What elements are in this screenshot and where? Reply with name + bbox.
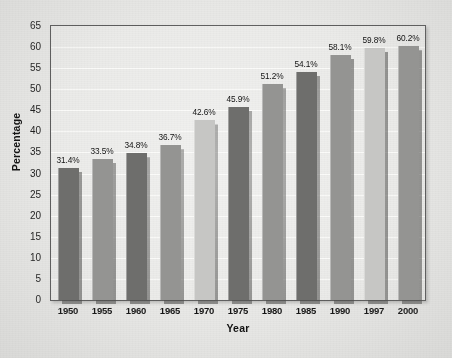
bar-1970[interactable]: 42.6%: [194, 26, 214, 300]
bar-1985[interactable]: 54.1%: [296, 26, 316, 300]
y-axis-tick-30: 30: [30, 169, 41, 179]
y-axis-tick-labels: 05101520253035404550556065: [0, 25, 46, 301]
bar-1965[interactable]: 36.7%: [160, 26, 180, 300]
bar-value-label: 58.1%: [328, 42, 351, 52]
bar-body[interactable]: [398, 46, 419, 300]
y-axis-tick-25: 25: [30, 190, 41, 200]
bar-1960[interactable]: 34.8%: [126, 26, 146, 300]
x-axis-tick-1980: 1980: [262, 305, 282, 316]
chart-figure: 05101520253035404550556065 Percentage 31…: [0, 0, 452, 358]
y-axis-tick-55: 55: [30, 63, 41, 73]
x-axis-tick-2000: 2000: [398, 305, 418, 316]
y-axis-tick-0: 0: [35, 295, 41, 305]
bar-value-label: 42.6%: [192, 107, 215, 117]
bar-1997[interactable]: 59.8%: [364, 26, 384, 300]
y-axis-tick-20: 20: [30, 211, 41, 221]
bar-body[interactable]: [194, 120, 215, 300]
y-axis-tick-60: 60: [30, 42, 41, 52]
y-axis-tick-65: 65: [30, 21, 41, 31]
bar-1990[interactable]: 58.1%: [330, 26, 350, 300]
y-axis-tick-50: 50: [30, 84, 41, 94]
x-axis-title: Year: [51, 322, 425, 334]
x-axis-tick-1970: 1970: [194, 305, 214, 316]
bar-value-label: 34.8%: [124, 140, 147, 150]
bar-body[interactable]: [92, 159, 113, 300]
x-axis-tick-1955: 1955: [92, 305, 112, 316]
y-axis-tick-35: 35: [30, 147, 41, 157]
bar-value-label: 60.2%: [396, 33, 419, 43]
y-axis-title: Percentage: [10, 87, 22, 197]
bar-value-label: 36.7%: [158, 132, 181, 142]
y-axis-tick-40: 40: [30, 126, 41, 136]
bar-value-label: 59.8%: [362, 35, 385, 45]
y-axis-tick-5: 5: [35, 274, 41, 284]
bar-value-label: 54.1%: [294, 59, 317, 69]
bar-1975[interactable]: 45.9%: [228, 26, 248, 300]
bar-value-label: 31.4%: [56, 155, 79, 165]
bar-body[interactable]: [364, 48, 385, 300]
x-axis-tick-labels: 1950195519601965197019751980198519901997…: [51, 305, 425, 319]
bar-body[interactable]: [262, 84, 283, 300]
bar-1950[interactable]: 31.4%: [58, 26, 78, 300]
bar-2000[interactable]: 60.2%: [398, 26, 418, 300]
x-axis-tick-1990: 1990: [330, 305, 350, 316]
bar-series: 31.4%33.5%34.8%36.7%42.6%45.9%51.2%54.1%…: [51, 26, 425, 300]
bar-body[interactable]: [160, 145, 181, 300]
bar-1980[interactable]: 51.2%: [262, 26, 282, 300]
y-axis-tick-10: 10: [30, 253, 41, 263]
y-axis-tick-15: 15: [30, 232, 41, 242]
y-axis-tick-45: 45: [30, 105, 41, 115]
bar-value-label: 45.9%: [226, 94, 249, 104]
bar-value-label: 33.5%: [90, 146, 113, 156]
x-axis-tick-1985: 1985: [296, 305, 316, 316]
bar-body[interactable]: [126, 153, 147, 300]
x-axis-tick-1965: 1965: [160, 305, 180, 316]
bar-body[interactable]: [228, 107, 249, 300]
x-axis-tick-1975: 1975: [228, 305, 248, 316]
x-axis-tick-1960: 1960: [126, 305, 146, 316]
x-axis-tick-1997: 1997: [364, 305, 384, 316]
bar-body[interactable]: [58, 168, 79, 300]
bar-body[interactable]: [330, 55, 351, 300]
x-axis-tick-1950: 1950: [58, 305, 78, 316]
bar-body[interactable]: [296, 72, 317, 300]
bar-value-label: 51.2%: [260, 71, 283, 81]
bar-1955[interactable]: 33.5%: [92, 26, 112, 300]
